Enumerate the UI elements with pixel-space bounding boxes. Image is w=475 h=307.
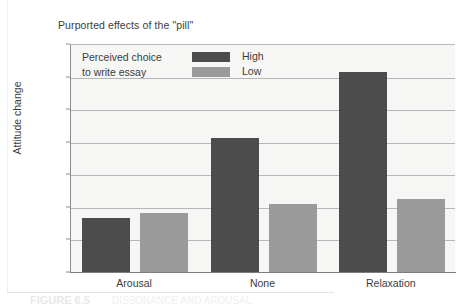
chart-title: Purported effects of the "pill" <box>58 19 193 31</box>
bar-none-high <box>211 138 259 272</box>
figure-root: Purported effects of the "pill" 02468101… <box>0 0 475 307</box>
figure-caption: FIGURE 6.5 DISSONANCE AND AROUSAL <box>0 293 475 307</box>
y-axis-title: Attitude change <box>11 43 23 193</box>
y-tick-mark-14 <box>66 44 70 45</box>
y-tick-mark-10 <box>66 109 70 110</box>
x-tick-label-none: None <box>250 277 275 289</box>
x-tick-label-relaxation: Relaxation <box>366 277 416 289</box>
chart-legend: Perceived choice to write essay High Low <box>82 50 302 84</box>
y-tick-mark-6 <box>66 174 70 175</box>
y-tick-mark-4 <box>66 206 70 207</box>
y-tick-mark-8 <box>66 141 70 142</box>
legend-label-low: Low <box>242 65 261 77</box>
bar-none-low <box>269 204 317 272</box>
legend-swatch-low <box>192 67 230 77</box>
gridline-10 <box>71 110 455 111</box>
x-tick-label-arousal: Arousal <box>116 277 152 289</box>
legend-title-line-1: Perceived choice <box>82 50 162 65</box>
legend-title-line-2: to write essay <box>82 65 146 80</box>
bar-arousal-high <box>82 218 130 272</box>
bar-relaxation-high <box>339 72 387 272</box>
y-tick-mark-2 <box>66 239 70 240</box>
caption-figure-number: FIGURE 6.5 <box>30 294 90 306</box>
gridline-6 <box>71 175 455 176</box>
y-tick-mark-0 <box>66 272 70 273</box>
x-axis-line <box>70 272 456 273</box>
legend-label-high: High <box>242 50 264 62</box>
y-tick-mark-12 <box>66 76 70 77</box>
bar-arousal-low <box>140 213 188 272</box>
gridline-8 <box>71 143 455 144</box>
legend-swatch-high <box>192 52 230 62</box>
page-gutter-rule <box>7 0 8 292</box>
bar-relaxation-low <box>397 199 445 272</box>
caption-text: DISSONANCE AND AROUSAL <box>112 295 251 306</box>
